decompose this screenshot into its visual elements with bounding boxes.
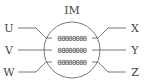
terminal-v: V — [4, 44, 14, 57]
motor-label: IM — [64, 4, 80, 17]
coil-3: 00000000 — [58, 59, 87, 67]
terminal-x: X — [131, 22, 139, 35]
wire-z — [92, 62, 126, 72]
wire-w — [18, 62, 52, 72]
terminal-w: W — [3, 66, 15, 79]
motor-schematic: IM U V W X Y Z 00000000 00000000 0000000… — [0, 0, 144, 84]
terminal-z: Z — [131, 66, 139, 79]
terminal-y: Y — [130, 44, 139, 57]
terminal-u: U — [4, 22, 13, 35]
coil-2: 00000000 — [58, 47, 87, 55]
wire-u — [18, 28, 52, 38]
induction-motor-diagram: IM U V W X Y Z 00000000 00000000 0000000… — [0, 0, 144, 84]
coil-1: 00000000 — [58, 35, 87, 43]
wire-x — [92, 28, 126, 38]
